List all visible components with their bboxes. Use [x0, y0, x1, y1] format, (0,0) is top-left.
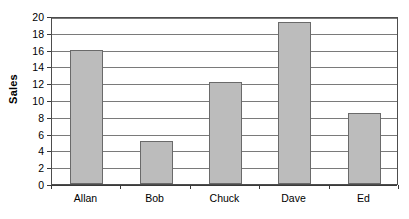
bar-chuck: [209, 82, 242, 184]
y-axis-tick-label: 10: [18, 96, 44, 106]
gridline: [52, 34, 397, 35]
y-axis-tick-label: 8: [18, 113, 44, 123]
bar-ed: [348, 113, 381, 184]
x-axis-tick-mark: [120, 185, 121, 189]
bar-allan: [70, 50, 103, 184]
y-axis-tick-label: 16: [18, 46, 44, 56]
x-axis-tick-mark: [51, 185, 52, 189]
x-axis-tick-mark: [329, 185, 330, 189]
x-axis-label-chuck: Chuck: [190, 192, 259, 204]
gridline: [52, 51, 397, 52]
y-axis-tick-label: 4: [18, 146, 44, 156]
bar-dave: [278, 22, 311, 184]
bar-chart: Sales 02468101214161820 AllanBobChuckDav…: [0, 0, 409, 219]
y-axis-tick-label: 0: [18, 180, 44, 190]
x-axis-label-bob: Bob: [120, 192, 189, 204]
y-axis-tick-label: 6: [18, 130, 44, 140]
gridline: [52, 67, 397, 68]
x-axis-label-ed: Ed: [329, 192, 398, 204]
y-axis-tick-label: 20: [18, 12, 44, 22]
y-axis-tick-label: 14: [18, 62, 44, 72]
plot-area: [51, 17, 398, 185]
y-axis-tick-label: 2: [18, 163, 44, 173]
x-axis-label-allan: Allan: [51, 192, 120, 204]
x-axis-label-dave: Dave: [259, 192, 328, 204]
x-axis-tick-mark: [190, 185, 191, 189]
gridline: [52, 185, 397, 186]
gridline: [52, 18, 397, 19]
x-axis-tick-mark: [398, 185, 399, 189]
y-axis-tick-label: 12: [18, 79, 44, 89]
x-axis-tick-mark: [259, 185, 260, 189]
y-axis-tick-label: 18: [18, 29, 44, 39]
bar-bob: [140, 141, 173, 184]
